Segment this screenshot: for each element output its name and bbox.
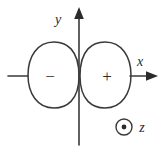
x-axis-label: x: [136, 54, 144, 69]
z-axis-out-of-page-dot: [122, 125, 127, 130]
y-axis-arrowhead: [74, 7, 84, 19]
left-lobe-sign: −: [45, 67, 55, 86]
x-axis-arrowhead: [146, 71, 158, 81]
orbital-figure: y x z − +: [0, 0, 167, 149]
z-axis-label: z: [138, 120, 145, 135]
right-lobe-sign: +: [102, 67, 112, 86]
y-axis-label: y: [53, 12, 62, 27]
orbital-diagram-canvas: y x z − +: [0, 0, 167, 149]
